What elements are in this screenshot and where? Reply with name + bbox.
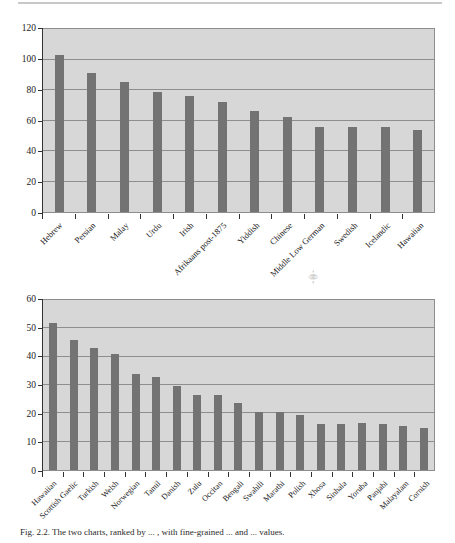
x-tick-labels-top: HebrewPersianMalayUrduIrishAfrikaans pos… xyxy=(42,219,435,279)
x-tick-label: Malay xyxy=(108,221,130,243)
y-tick-mark xyxy=(38,299,42,300)
y-tick-mark xyxy=(38,28,42,29)
bar xyxy=(152,377,160,471)
x-tick-label: Chinese xyxy=(268,221,294,247)
y-tick-label: 0 xyxy=(31,466,36,476)
y-tick-label: 80 xyxy=(27,85,37,95)
bar xyxy=(348,127,357,212)
x-tick-label: Irish xyxy=(178,221,196,239)
chart-area-top: 020406080100120 HebrewPersianMalayUrduIr… xyxy=(0,18,455,276)
y-tick-mark xyxy=(38,442,42,443)
bar-slot xyxy=(369,29,402,212)
x-label-slot: Norwegian xyxy=(125,477,146,525)
x-label-slot: Urdu xyxy=(140,219,173,279)
bar-slot xyxy=(108,29,141,212)
bar xyxy=(276,412,284,470)
x-tick-label: Swedish xyxy=(333,221,360,248)
bar-slot xyxy=(372,300,393,470)
y-tick-label: 0 xyxy=(31,208,36,218)
bar xyxy=(358,423,366,470)
bar xyxy=(255,412,263,470)
bar-chart-bottom: 0102030405060 HawaiianScottish GaelicTur… xyxy=(0,290,455,520)
bar xyxy=(317,424,325,470)
y-axis-line-bottom xyxy=(42,299,43,472)
bar xyxy=(420,428,428,470)
y-tick-mark xyxy=(38,328,42,329)
y-tick-label: 120 xyxy=(22,23,36,33)
x-tick-label: Yiddish xyxy=(236,221,261,246)
x-tick-label: Hebrew xyxy=(39,221,65,247)
x-label-slot: Persian xyxy=(75,219,108,279)
y-tick-mark xyxy=(38,385,42,386)
bar xyxy=(413,130,422,212)
bar xyxy=(87,73,96,212)
x-label-slot: Polish xyxy=(290,477,311,525)
y-axis-line-top xyxy=(42,28,43,214)
x-tick-labels-bottom: HawaiianScottish GaelicTurkishWelshNorwe… xyxy=(42,477,435,525)
bar xyxy=(250,111,259,212)
bar-slot xyxy=(105,300,126,470)
bar-slot xyxy=(125,300,146,470)
bar-slot xyxy=(84,300,105,470)
page-top-rule xyxy=(18,2,442,4)
bar-slot xyxy=(206,29,239,212)
y-tick-labels-top: 020406080100120 xyxy=(0,28,36,213)
y-tick-label: 60 xyxy=(27,294,37,304)
bar xyxy=(55,55,64,212)
y-tick-label: 30 xyxy=(27,380,37,390)
x-tick-label: Persian xyxy=(73,221,97,245)
bar-slot xyxy=(166,300,187,470)
x-tick-label: Urdu xyxy=(144,221,163,240)
x-label-slot: Turkish xyxy=(83,477,104,525)
bar xyxy=(120,82,129,212)
bar-slot xyxy=(393,300,414,470)
bar-slot xyxy=(208,300,229,470)
bar xyxy=(234,403,242,470)
bar xyxy=(337,424,345,470)
bar-slot xyxy=(43,29,76,212)
y-tick-mark xyxy=(38,356,42,357)
y-tick-mark xyxy=(38,414,42,415)
bar xyxy=(90,348,98,470)
bar-series-top xyxy=(43,29,434,212)
bar-slot xyxy=(413,300,434,470)
y-tick-label: 10 xyxy=(27,437,37,447)
bar-slot xyxy=(187,300,208,470)
y-tick-mark xyxy=(38,90,42,91)
y-tick-marks-bottom xyxy=(38,299,42,471)
x-label-slot: Malay xyxy=(108,219,141,279)
y-tick-marks-top xyxy=(38,28,42,213)
x-tick-label: Zulu xyxy=(186,479,203,496)
x-label-slot: Sinhala xyxy=(332,477,353,525)
bar-chart-top: 020406080100120 HebrewPersianMalayUrduIr… xyxy=(0,18,455,276)
bar xyxy=(111,354,119,470)
bar xyxy=(185,96,194,212)
x-label-slot: Marathi xyxy=(270,477,291,525)
x-label-slot: Danish xyxy=(166,477,187,525)
y-tick-label: 60 xyxy=(27,116,37,126)
x-label-slot: Hebrew xyxy=(42,219,75,279)
bar-series-bottom xyxy=(43,300,434,470)
bar-slot xyxy=(304,29,337,212)
y-tick-label: 40 xyxy=(27,146,37,156)
bar xyxy=(381,127,390,212)
figure-caption: Fig. 2.2. The two charts, ranked by ... … xyxy=(20,527,440,543)
bar-slot xyxy=(141,29,174,212)
y-tick-label: 40 xyxy=(27,351,37,361)
bar xyxy=(214,395,222,470)
bar xyxy=(218,102,227,212)
bar xyxy=(132,374,140,470)
y-tick-label: 50 xyxy=(27,323,37,333)
plot-area-bottom xyxy=(42,299,435,471)
bar-slot xyxy=(311,300,332,470)
y-tick-mark xyxy=(38,182,42,183)
y-tick-label: 20 xyxy=(27,409,37,419)
bar-slot xyxy=(336,29,369,212)
bar xyxy=(283,117,292,212)
bar-slot xyxy=(43,300,64,470)
document-page: 020406080100120 HebrewPersianMalayUrduIr… xyxy=(0,0,455,543)
bar-slot xyxy=(401,29,434,212)
x-label-slot: Middle Low German xyxy=(304,219,337,279)
bar xyxy=(70,340,78,470)
bar xyxy=(153,92,162,212)
